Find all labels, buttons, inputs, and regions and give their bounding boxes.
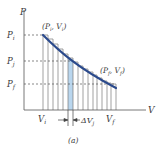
shaded-strip bbox=[68, 59, 73, 110]
point-initial-label: (Pi, Vi) bbox=[42, 22, 66, 32]
tick-p-j: Pj bbox=[6, 56, 15, 68]
x-axis-label: V bbox=[148, 105, 156, 115]
delta-v-arrows bbox=[58, 110, 80, 126]
tick-v-f: Vf bbox=[106, 114, 116, 126]
tick-p-i: Pi bbox=[6, 30, 15, 41]
pv-diagram: P V Pi Pj Pf Vi Vf (Pi, Vi) (Pf, Vf) ΔVj… bbox=[0, 0, 165, 155]
figure-caption: (a) bbox=[68, 136, 78, 145]
point-final-label: (Pf, Vf) bbox=[100, 66, 125, 77]
y-axis-label: P bbox=[19, 7, 27, 17]
pv-curve bbox=[43, 35, 116, 88]
step-outline bbox=[43, 35, 116, 84]
tick-p-f: Pf bbox=[6, 79, 17, 91]
delta-v-label: ΔVj bbox=[80, 116, 95, 127]
tick-v-i: Vi bbox=[38, 114, 46, 125]
